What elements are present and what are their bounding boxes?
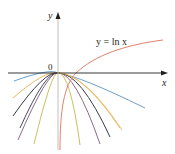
curve-dark (13, 73, 110, 137)
ln-x-annotation: y = ln x (96, 36, 127, 47)
x-axis-arrow-icon (161, 71, 168, 76)
x-axis-label: x (161, 77, 167, 88)
y-axis-label: y (47, 10, 53, 21)
curve-family (13, 72, 145, 145)
origin-label: 0 (48, 62, 53, 72)
y-axis-arrow-icon (56, 12, 61, 19)
curve-yellow-right2 (58, 73, 120, 128)
axes (8, 12, 168, 150)
chart: y x 0 y = ln x (0, 0, 175, 154)
curve-yellow (13, 73, 122, 130)
ln-x-curve (60, 40, 163, 150)
